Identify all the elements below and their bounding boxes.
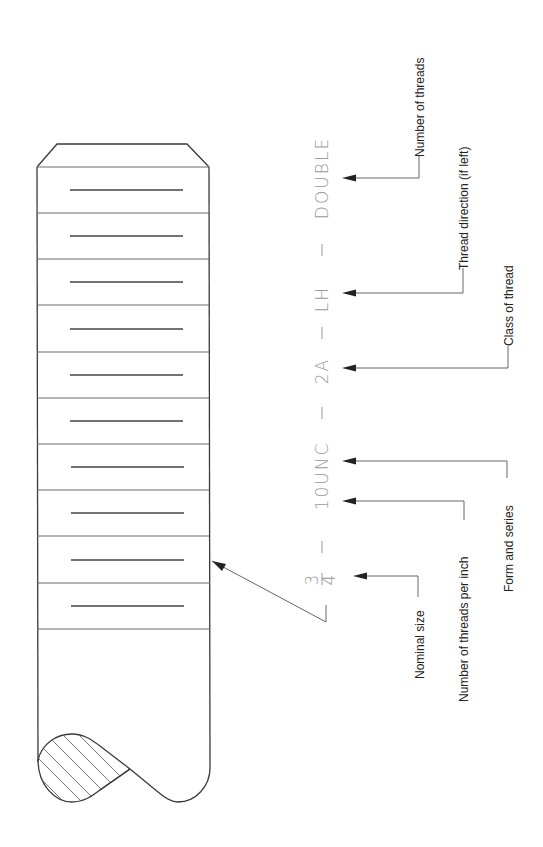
shaft-left-edge (37, 167, 38, 762)
callout-threads: DOUBLE (312, 137, 332, 219)
callout-class: 2A (312, 358, 332, 384)
label-class-of-thread: Class of thread (502, 265, 516, 346)
label-nominal-size: Nominal size (413, 610, 427, 679)
callout-nominal-denominator: 4 (319, 573, 339, 586)
annotation-labels: Number of threads Thread direction (if l… (413, 58, 516, 702)
threaded-shaft (10, 144, 210, 818)
shaft-right-edge (209, 167, 210, 768)
callout-threads-form: 10UNC (312, 442, 332, 511)
callout-direction: LH (312, 286, 332, 312)
shaft-leader (212, 561, 326, 622)
label-form-and-series: Form and series (502, 505, 516, 592)
shaft-chamfer (37, 144, 209, 167)
label-thread-direction: Thread direction (if left) (457, 147, 471, 270)
thread-callout: 3 4 10UNC 2A LH DOUBLE (302, 137, 339, 586)
shaft-break (10, 706, 210, 818)
label-threads-per-inch: Number of threads per inch (457, 557, 471, 702)
thread-note-diagram: 3 4 10UNC 2A LH DOUBLE Number of (0, 0, 543, 847)
label-number-of-threads: Number of threads (413, 58, 427, 157)
annotation-leaders (342, 155, 508, 597)
